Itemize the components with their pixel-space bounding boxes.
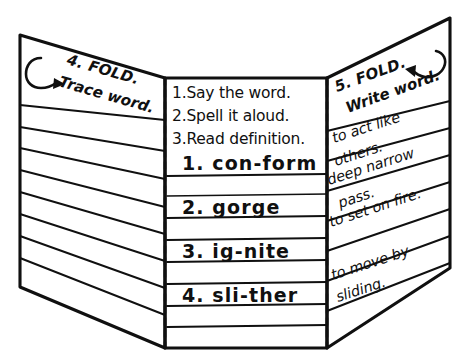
left-rule-2 (20, 127, 165, 151)
left-rule-6 (20, 214, 165, 261)
right-definition-4-line1: to move by (329, 242, 412, 282)
middle-rule-8 (167, 325, 327, 327)
middle-step-3: 3.Read definition. (172, 130, 305, 148)
middle-step-2: 2.Spell it aloud. (172, 107, 289, 125)
middle-word-1: 1. con-form (182, 152, 317, 174)
left-rule-8 (20, 258, 165, 315)
middle-step-1: 1.Say the word. (172, 84, 291, 102)
left-panel: 4. FOLD. Trace word. (20, 35, 165, 348)
left-rule-7 (20, 236, 165, 288)
middle-panel: 1.Say the word. 2.Spell it aloud. 3.Read… (165, 78, 327, 348)
left-rule-4 (20, 170, 165, 207)
diagram-canvas: 4. FOLD. Trace word. 1.Say the word. 2.S… (0, 0, 468, 363)
left-rule-5 (20, 192, 165, 234)
right-definition-1-line1: to act like (330, 109, 402, 146)
left-rule-3 (20, 148, 165, 179)
trifold-foldable-diagram: 4. FOLD. Trace word. 1.Say the word. 2.S… (0, 0, 468, 363)
right-panel: 5. FOLD. Write word. to act like others.… (325, 18, 450, 348)
middle-word-4: 4. sli-ther (182, 284, 298, 306)
middle-word-2: 2. gorge (182, 196, 280, 218)
middle-rule-1 (167, 174, 327, 176)
middle-word-3: 3. ig-nite (182, 240, 290, 262)
